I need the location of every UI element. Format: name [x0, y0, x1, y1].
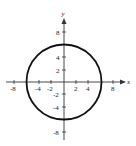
y-tick-label: -4: [53, 104, 59, 112]
y-tick-label: -2: [53, 91, 59, 99]
x-tick-label: 2: [74, 85, 78, 93]
x-tick-label: 4: [86, 85, 90, 93]
y-axis-label: y: [61, 10, 66, 18]
coordinate-graph: x y -8 -4 -2 2 4 8 8 4 2 -2 -4 -8: [0, 0, 136, 146]
y-tick-label: 4: [56, 54, 60, 62]
x-axis-arrow-icon: [120, 80, 126, 85]
x-tick-label: -8: [10, 85, 16, 93]
y-tick-label: 8: [56, 29, 60, 37]
y-tick-label: 2: [56, 67, 60, 75]
y-tick-label: -8: [53, 129, 59, 137]
x-tick-label: 8: [111, 85, 115, 93]
x-axis-label: x: [126, 78, 131, 86]
x-tick-label: -4: [35, 85, 41, 93]
y-axis-arrow-icon: [62, 18, 67, 24]
